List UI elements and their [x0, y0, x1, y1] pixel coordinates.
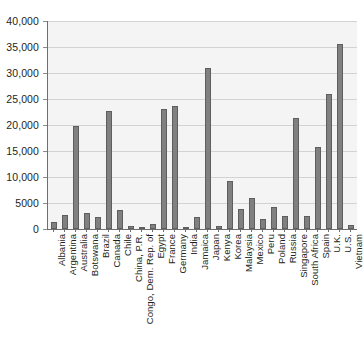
x-tick-label: Canada — [112, 234, 122, 268]
x-tick-label: France — [167, 234, 177, 264]
bar[interactable] — [282, 216, 288, 229]
bar[interactable] — [62, 215, 68, 229]
x-tick-mark — [350, 229, 351, 232]
bar[interactable] — [326, 94, 332, 229]
x-tick-mark — [328, 229, 329, 232]
x-tick-label: Germany — [178, 234, 188, 273]
x-tick-mark — [306, 229, 307, 232]
y-tick-label: 30,000 — [6, 68, 39, 79]
bar[interactable] — [51, 222, 57, 229]
plot-area — [47, 21, 357, 229]
x-tick-label: Albania — [57, 234, 67, 266]
x-tick-mark — [163, 229, 164, 232]
bar[interactable] — [293, 118, 299, 229]
x-tick-label: Spain — [321, 234, 331, 259]
y-tick-label: 35,000 — [6, 42, 39, 53]
x-tick-label: Brazil — [101, 234, 111, 258]
bar[interactable] — [271, 207, 277, 229]
bar[interactable] — [106, 111, 112, 229]
y-tick-label: 15,000 — [6, 146, 39, 157]
x-tick-label: Poland — [277, 234, 287, 264]
x-tick-label: Malaysia — [244, 234, 254, 272]
bar[interactable] — [161, 109, 167, 229]
x-tick-mark — [64, 229, 65, 232]
x-tick-label: U.K. — [332, 234, 342, 253]
bar[interactable] — [238, 209, 244, 229]
bar[interactable] — [315, 147, 321, 229]
x-tick-mark — [130, 229, 131, 232]
x-tick-mark — [141, 229, 142, 232]
x-tick-mark — [119, 229, 120, 232]
y-tick-label: 25,000 — [6, 94, 39, 105]
x-tick-label: Korea — [233, 234, 243, 260]
x-tick-label: U.S. — [343, 234, 353, 253]
bar[interactable] — [73, 126, 79, 229]
bar[interactable] — [172, 106, 178, 229]
x-tick-mark — [53, 229, 54, 232]
x-tick-mark — [207, 229, 208, 232]
x-tick-mark — [317, 229, 318, 232]
bar[interactable] — [304, 216, 310, 229]
x-tick-label: Botswana — [90, 234, 100, 276]
x-tick-mark — [218, 229, 219, 232]
x-tick-mark — [86, 229, 87, 232]
x-tick-label: Kenya — [222, 234, 232, 261]
x-tick-mark — [97, 229, 98, 232]
x-tick-label: Australia — [79, 234, 89, 271]
x-tick-label: India — [189, 234, 199, 255]
y-tick-label: 0 — [33, 224, 39, 235]
x-tick-mark — [240, 229, 241, 232]
x-tick-label: Peru — [266, 234, 276, 254]
x-tick-mark — [174, 229, 175, 232]
bars-layer — [48, 21, 357, 229]
x-tick-label: Japan — [211, 234, 221, 260]
x-tick-mark — [196, 229, 197, 232]
bar[interactable] — [194, 217, 200, 229]
x-tick-mark — [152, 229, 153, 232]
x-tick-mark — [185, 229, 186, 232]
x-tick-mark — [229, 229, 230, 232]
x-tick-label: Egypt — [156, 234, 166, 259]
x-tick-label: Vietnam — [354, 234, 364, 269]
x-tick-mark — [75, 229, 76, 232]
x-tick-label: South Africa — [310, 234, 320, 286]
x-tick-label: Jamaica — [200, 234, 210, 270]
x-tick-mark — [108, 229, 109, 232]
y-axis: 0500010,00015,00020,00025,00030,00035,00… — [0, 0, 44, 341]
x-tick-mark — [251, 229, 252, 232]
bar[interactable] — [205, 68, 211, 229]
x-tick-mark — [262, 229, 263, 232]
x-tick-label: Argentina — [68, 234, 78, 275]
x-tick-label: Mexico — [255, 234, 265, 264]
x-tick-label: Chile — [123, 234, 133, 256]
x-tick-mark — [284, 229, 285, 232]
y-tick-label: 40,000 — [6, 16, 39, 27]
x-axis: AlbaniaArgentinaAustraliaBotswanaBrazilC… — [47, 232, 356, 341]
bar[interactable] — [117, 210, 123, 229]
bar[interactable] — [260, 219, 266, 229]
bar[interactable] — [337, 44, 343, 229]
bar[interactable] — [227, 181, 233, 229]
bar[interactable] — [84, 213, 90, 229]
x-tick-mark — [339, 229, 340, 232]
bar[interactable] — [249, 198, 255, 229]
x-tick-label: China, P.R. — [134, 234, 144, 282]
y-tick-label: 20,000 — [6, 120, 39, 131]
y-tick-label: 5000 — [15, 198, 39, 209]
x-tick-label: Russia — [288, 234, 298, 263]
bar[interactable] — [95, 217, 101, 229]
x-tick-label: Congo, Dem. Rep. of — [145, 234, 155, 324]
y-tick-label: 10,000 — [6, 172, 39, 183]
x-tick-label: Singapore — [299, 234, 309, 278]
x-tick-mark — [295, 229, 296, 232]
x-tick-mark — [273, 229, 274, 232]
x-axis-line — [47, 229, 357, 230]
